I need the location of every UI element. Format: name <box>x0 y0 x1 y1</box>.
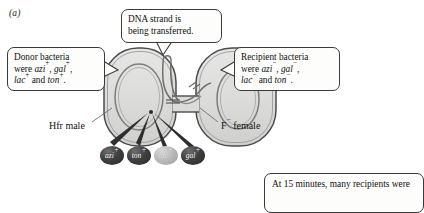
recipient-and-text: and <box>256 75 274 85</box>
panel-label: (a) <box>9 8 21 18</box>
dna-callout-line-1: DNA strand is <box>128 14 215 26</box>
fifteen-minutes-callout: At 15 minutes, many recipients were <box>264 173 424 213</box>
recipient-bacteria-callout: Recipient bacteria were azi−, gal−, lac−… <box>234 47 340 91</box>
donor-gene-lac: lac <box>14 75 25 85</box>
gene-marker-azi-text: azi <box>105 151 114 160</box>
donor-callout-line-3: lac+ and ton+. <box>14 75 98 87</box>
gene-marker-gal: gal+ <box>181 146 205 165</box>
gene-marker-ton-label: ton+ <box>132 151 147 160</box>
gene-marker-gal-label: gal+ <box>186 151 201 160</box>
gene-marker-gal-sup: + <box>195 146 200 154</box>
f-minus-female-label: F− female <box>221 120 260 131</box>
recipient-gene-azi: azi <box>261 64 272 74</box>
donor-and-text: and <box>29 75 47 85</box>
recipient-callout-line-3: lac− and ton−. <box>241 75 333 87</box>
gene-marker-azi: azi+ <box>100 146 124 165</box>
recipient-callout-line-1: Recipient bacteria <box>241 52 333 64</box>
recipient-gene-gal-sup: − <box>293 59 297 67</box>
donor-period: . <box>63 75 65 85</box>
gene-marker-azi-label: azi+ <box>105 151 119 160</box>
gene-marker-lac: lac+ <box>154 146 178 165</box>
f-minus-letter: F <box>221 120 227 131</box>
donor-gene-azi-sup: + <box>45 59 49 67</box>
dna-callout-line-2: being transferred. <box>128 26 215 38</box>
gene-marker-gal-text: gal <box>186 151 196 160</box>
donor-sep-2: , <box>70 64 72 74</box>
donor-gene-ton: ton <box>48 75 60 85</box>
donor-gene-ton-sup: + <box>59 71 63 79</box>
gene-marker-lac-text: lac <box>159 151 168 160</box>
recipient-gene-ton-sup: − <box>286 71 290 79</box>
female-word: female <box>231 120 261 131</box>
gene-marker-lac-label: lac+ <box>159 151 173 160</box>
recipient-gene-ton: ton <box>275 75 287 85</box>
donor-callout-line-1: Donor bacteria <box>14 52 98 64</box>
donor-bacteria-callout: Donor bacteria were azi+, gal+, lac+ and… <box>7 47 105 91</box>
hfr-male-label: Hfr male <box>49 120 85 131</box>
donor-gene-azi: azi <box>34 64 45 74</box>
recipient-gene-lac: lac <box>241 75 252 85</box>
recipient-gene-azi-sup: − <box>272 59 276 67</box>
gene-marker-lac-sup: + <box>168 146 173 154</box>
recipient-period: . <box>290 75 292 85</box>
gene-marker-ton-text: ton <box>132 151 142 160</box>
fifteen-minutes-line-1: At 15 minutes, many recipients were <box>272 179 416 191</box>
dna-transfer-callout: DNA strand is being transferred. <box>121 9 222 43</box>
gene-marker-azi-sup: + <box>114 146 119 154</box>
recipient-gene-lac-sup: − <box>252 71 256 79</box>
donor-gene-lac-sup: + <box>25 71 29 79</box>
f-minus-superscript: − <box>227 116 231 124</box>
donor-gene-gal-sup: + <box>66 59 70 67</box>
gene-marker-ton-sup: + <box>141 146 146 154</box>
recipient-sep-2: , <box>297 64 299 74</box>
gene-marker-ton: ton+ <box>127 146 151 165</box>
